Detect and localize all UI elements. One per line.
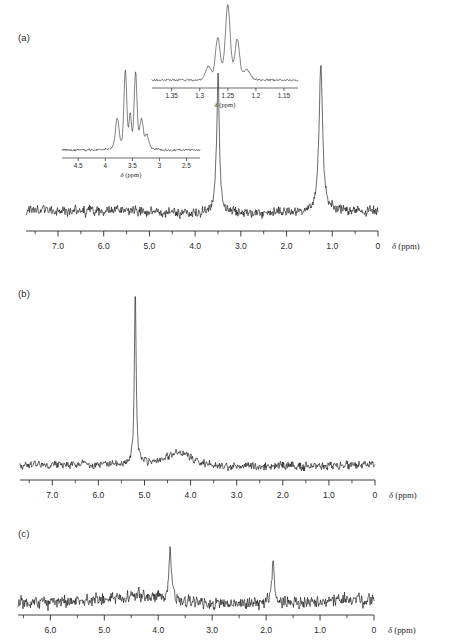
inset-axis-tick-label: 4.5: [74, 162, 83, 169]
axis-tick-label: 5.0: [139, 490, 151, 500]
axis-tick-label: 3.0: [231, 490, 243, 500]
panel-a-plot: 7.06.05.04.03.02.01.00δ (ppm)4.543.532.5…: [0, 0, 453, 270]
inset-axis-tick-label: 1.35: [165, 92, 178, 99]
axis-tick-label: 3.0: [206, 625, 218, 635]
axis-tick-label: 0: [376, 241, 381, 251]
axis-tick-label: 2.0: [260, 625, 272, 635]
panel-b-plot: 7.06.05.04.03.02.01.00δ (ppm): [0, 280, 453, 520]
axis-tick-label: 6.0: [92, 490, 104, 500]
panel-c: (c) 6.05.04.03.02.01.00δ (ppm): [0, 522, 453, 643]
axis-title: δ (ppm): [392, 241, 420, 251]
axis-tick-label: 2.0: [277, 490, 289, 500]
axis-tick-label: 5.0: [98, 625, 110, 635]
inset-axis-title: δ (ppm): [121, 171, 142, 179]
inset-axis-tick-label: 1.15: [278, 92, 291, 99]
spectrum-trace-c: [18, 546, 374, 610]
axis-tick-label: 1.0: [323, 490, 335, 500]
panel-b-label: (b): [18, 288, 30, 299]
inset-axis-tick-label: 1.25: [222, 92, 235, 99]
panel-a: (a) 7.06.05.04.03.02.01.00δ (ppm)4.543.5…: [0, 0, 453, 270]
inset-axis-tick-label: 1.2: [251, 92, 260, 99]
axis-tick-label: 1.0: [326, 241, 338, 251]
spectrum-trace-b: [20, 296, 375, 471]
axis-tick-label: 4.0: [152, 625, 164, 635]
panel-a-label: (a): [18, 32, 30, 43]
axis-tick-label: 6.0: [98, 241, 110, 251]
axis-tick-label: 7.0: [52, 241, 64, 251]
axis-tick-label: 0: [372, 625, 377, 635]
axis-tick-label: 4.0: [189, 241, 201, 251]
spectrum-trace-a: [26, 65, 378, 218]
axis-tick-label: 5.0: [143, 241, 155, 251]
axis-tick-label: 1.0: [314, 625, 326, 635]
inset-axis-tick-label: 3.5: [128, 162, 137, 169]
panel-c-label: (c): [18, 528, 30, 539]
axis-tick-label: 3.0: [235, 241, 247, 251]
axis-title: δ (ppm): [388, 625, 416, 635]
inset-axis-title: δ (ppm): [215, 101, 236, 109]
inset-axis-tick-label: 2.5: [182, 162, 191, 169]
axis-title: δ (ppm): [389, 490, 417, 500]
axis-tick-label: 2.0: [281, 241, 293, 251]
axis-tick-label: 6.0: [44, 625, 56, 635]
axis-tick-label: 0: [373, 490, 378, 500]
inset-left-trace: [62, 70, 200, 151]
inset-axis-tick-label: 3: [158, 162, 162, 169]
axis-tick-label: 7.0: [46, 490, 58, 500]
inset-axis-tick-label: 4: [104, 162, 108, 169]
panel-c-plot: 6.05.04.03.02.01.00δ (ppm): [0, 522, 453, 643]
inset-axis-tick-label: 1.3: [195, 92, 204, 99]
axis-tick-label: 4.0: [185, 490, 197, 500]
inset-right-trace: [152, 5, 298, 81]
panel-b: (b) 7.06.05.04.03.02.01.00δ (ppm): [0, 280, 453, 520]
